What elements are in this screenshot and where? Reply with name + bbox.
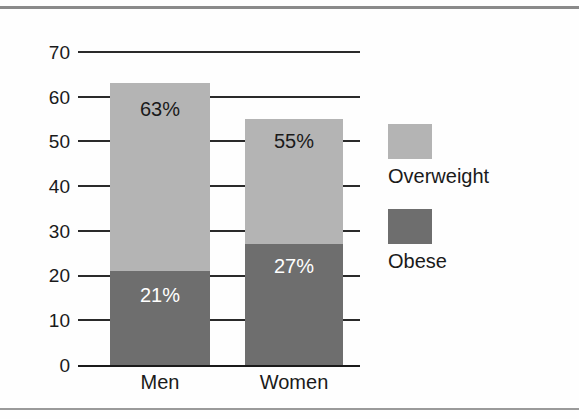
y-tick-label-50: 50 — [24, 132, 70, 151]
legend-label-overweight: Overweight — [388, 165, 558, 187]
y-tick-mark-20 — [78, 275, 100, 277]
y-tick-label-20: 20 — [24, 266, 70, 285]
y-tick-label-10: 10 — [24, 311, 70, 330]
y-tick-label-0: 0 — [24, 356, 70, 375]
bar-men-overweight-label: 63% — [110, 99, 210, 119]
top-divider-rule — [0, 6, 579, 9]
bar-women-overweight-label: 55% — [245, 131, 343, 151]
bar-women-obese-label: 27% — [245, 256, 343, 276]
legend-label-obese: Obese — [388, 250, 558, 272]
x-axis-line — [78, 365, 360, 367]
legend-swatch-obese-icon — [388, 209, 432, 244]
y-tick-label-30: 30 — [24, 222, 70, 241]
y-tick-mark-40 — [78, 185, 100, 187]
bar-women-obese[interactable]: 27% — [245, 244, 343, 365]
bottom-divider-rule — [0, 408, 579, 410]
y-tick-label-60: 60 — [24, 88, 70, 107]
y-tick-mark-60 — [78, 96, 100, 98]
y-tick-label-40: 40 — [24, 177, 70, 196]
chart-legend: Overweight Obese — [388, 124, 558, 294]
y-tick-mark-70 — [78, 51, 100, 53]
legend-item-obese[interactable]: Obese — [388, 209, 558, 272]
y-tick-mark-10 — [78, 319, 100, 321]
bar-men-overweight[interactable]: 63% — [110, 83, 210, 271]
y-tick-label-70: 70 — [24, 43, 70, 62]
chart-page: Percent 70 60 50 40 30 20 10 0 63% 21% 5 — [0, 0, 579, 419]
x-tick-label-men: Men — [110, 372, 210, 392]
y-tick-mark-30 — [78, 230, 100, 232]
bar-men-obese-label: 21% — [110, 285, 210, 305]
x-tick-label-women: Women — [245, 372, 343, 392]
bar-men-obese[interactable]: 21% — [110, 271, 210, 365]
legend-swatch-overweight-icon — [388, 124, 432, 159]
y-tick-mark-50 — [78, 140, 100, 142]
y-axis-tick-labels: 70 60 50 40 30 20 10 0 — [24, 12, 70, 404]
legend-item-overweight[interactable]: Overweight — [388, 124, 558, 187]
gridline-70 — [78, 51, 360, 53]
bar-women-overweight[interactable]: 55% — [245, 119, 343, 244]
